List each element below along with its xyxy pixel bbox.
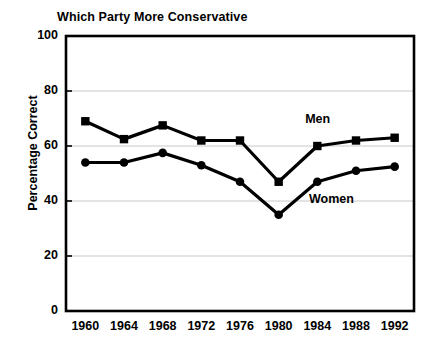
y-tick-label-0: 0 [24,304,58,317]
y-tick-label-60: 60 [24,139,58,152]
plot-frame [66,36,414,311]
annotation-men: Men [305,112,330,126]
x-tick-label-1988: 1988 [334,320,378,333]
data-point-women-1992 [390,162,399,171]
y-tick-label-80: 80 [24,84,58,97]
data-point-men-1964 [120,135,128,143]
data-point-women-1988 [352,166,361,175]
y-tick-label-100: 100 [24,29,58,42]
data-point-women-1980 [274,210,283,219]
annotation-women: Women [309,192,354,206]
x-tick-label-1960: 1960 [63,320,107,333]
data-point-men-1968 [158,121,166,129]
x-tick-label-1980: 1980 [257,320,301,333]
plot-area [0,0,436,352]
data-point-men-1972 [197,136,205,144]
data-point-women-1972 [197,161,206,170]
data-point-women-1968 [158,149,167,158]
data-point-women-1984 [313,177,322,186]
x-tick-label-1968: 1968 [141,320,185,333]
x-tick-label-1972: 1972 [179,320,223,333]
data-point-men-1976 [236,136,244,144]
y-tick-label-20: 20 [24,249,58,262]
x-tick-label-1964: 1964 [102,320,146,333]
data-point-men-1960 [81,117,89,125]
x-tick-label-1992: 1992 [373,320,417,333]
data-point-men-1988 [352,136,360,144]
y-tick-label-40: 40 [24,194,58,207]
data-point-men-1984 [313,142,321,150]
data-point-women-1964 [120,158,129,167]
chart-container: Which Party More Conservative Percentage… [0,0,436,352]
x-tick-label-1976: 1976 [218,320,262,333]
chart-title: Which Party More Conservative [57,10,247,24]
data-point-men-1980 [274,178,282,186]
data-point-women-1976 [236,177,245,186]
data-point-women-1960 [81,158,90,167]
data-point-men-1992 [390,134,398,142]
x-tick-label-1984: 1984 [295,320,339,333]
